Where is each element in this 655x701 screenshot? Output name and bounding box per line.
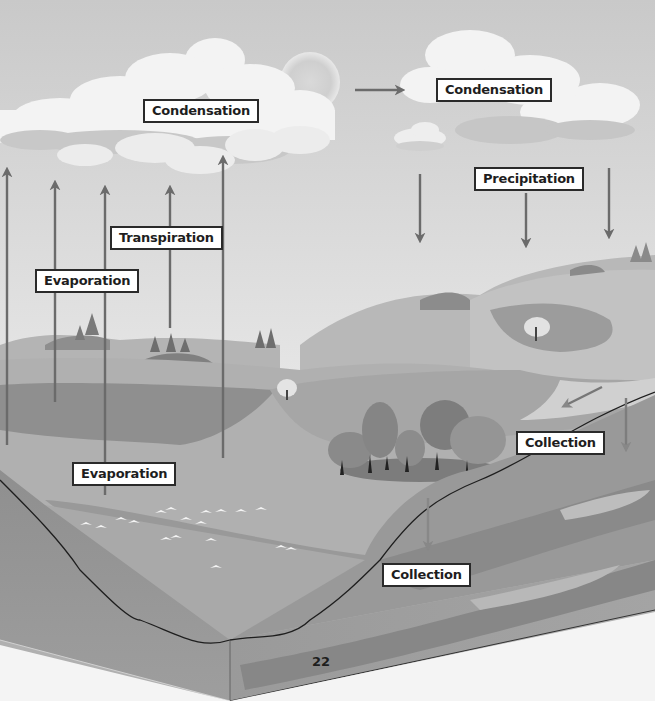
page-number: 22 bbox=[312, 654, 330, 669]
label-transpiration: Transpiration bbox=[110, 226, 223, 250]
label-evaporation-lower: Evaporation bbox=[72, 462, 176, 486]
water-cycle-illustration bbox=[0, 0, 655, 701]
water-cycle-diagram: Condensation Condensation Precipitation … bbox=[0, 0, 655, 701]
label-precipitation: Precipitation bbox=[474, 167, 584, 191]
label-collection-right: Collection bbox=[516, 431, 605, 455]
label-evaporation-upper: Evaporation bbox=[35, 269, 139, 293]
label-collection-lower: Collection bbox=[382, 563, 471, 587]
label-condensation-right: Condensation bbox=[436, 78, 552, 102]
label-condensation-left: Condensation bbox=[143, 99, 259, 123]
